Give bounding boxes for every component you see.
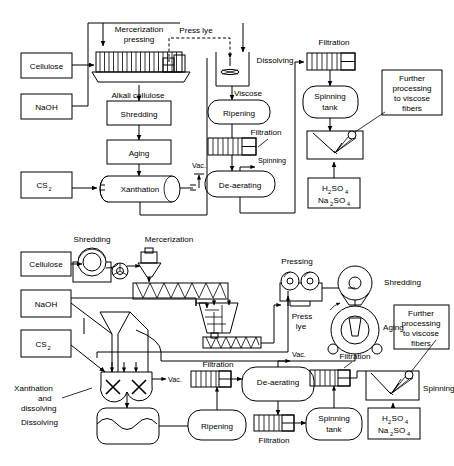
bot-spin-bath (366, 371, 419, 400)
top-filtration-unit-1 (307, 53, 355, 70)
bot-acid-so: SO (392, 414, 404, 423)
bot-naoh-box: NaOH (21, 290, 71, 317)
bot-further-line2: processing (401, 319, 440, 328)
bot-filtration-to-spin-bath (350, 371, 366, 378)
bot-steeping-tank (199, 299, 238, 338)
top-cellulose-label: Cellulose (30, 62, 64, 71)
bot-pressing-label: Pressing (281, 257, 313, 266)
bot-cs2-subscript: 2 (48, 345, 51, 351)
bot-mercerization-hopper (138, 248, 161, 282)
bot-cellulose-box: Cellulose (21, 252, 71, 276)
bot-deaerating-vessel: De-aerating (242, 367, 314, 401)
bot-mercerization-conveyor (133, 283, 228, 299)
bot-cellulose-label: Cellulose (29, 260, 63, 269)
bot-spinning-tank-label-2: tank (326, 425, 342, 434)
bot-filtration-label-2: Filtration (339, 352, 370, 361)
top-spinning-leader (355, 112, 385, 132)
top-deaerating-label: De-aerating (219, 181, 261, 190)
top-dissolving-label: Dissolving (257, 56, 294, 65)
bot-mercerization-label: Mercerization (145, 235, 194, 244)
bot-cs2-feed-arrow (71, 345, 105, 372)
top-further-line4: fibers (402, 104, 422, 113)
bot-xanthation-line3: dissolving (21, 404, 57, 413)
bot-spinning-tank-vessel: Spinning tank (306, 408, 362, 440)
top-acid-so: SO (332, 184, 344, 193)
top-aging-label: Aging (129, 149, 150, 158)
top-cs2-box: CS 2 (21, 172, 72, 198)
top-dissolving-vessel (216, 52, 249, 86)
top-acid-na-so-sub: 4 (347, 201, 350, 207)
top-further-line1: Further (399, 74, 425, 83)
bot-dissolving-label: Dissolving (21, 418, 58, 427)
bot-further-processing-box: Further processing to viscose fibers (394, 305, 449, 349)
top-deaerating-vessel: De-aerating (205, 171, 275, 197)
bot-spinning-label: Spinning (423, 384, 454, 393)
bot-deaerating-label: De-aerating (257, 378, 299, 387)
bot-further-line4: fibers (411, 339, 431, 348)
top-vac-label-1: Vac. (192, 161, 206, 170)
top-filtration-unit-2 (208, 138, 256, 155)
bot-cs2-label: CS (35, 340, 47, 349)
top-spin-bath (307, 131, 363, 159)
top-mercerization-press (92, 52, 190, 82)
top-alkali-cellulose-label: Alkali cellulose (111, 91, 165, 100)
top-xanthation-label: Xanthation (121, 185, 160, 194)
bot-acid-na-so: SO (394, 426, 406, 435)
top-cs2-label: CS (36, 181, 48, 190)
bot-dissolving-vessel (97, 408, 159, 444)
top-acid-na-so: SO (334, 196, 346, 205)
top-further-processing-box: Further processing to viscose fibers (382, 70, 442, 115)
bot-pressing-rolls (280, 272, 322, 306)
bot-filtration-label-1: Filtration (202, 360, 233, 369)
process-flow-figure: Cellulose NaOH CS 2 Mercerization pressi… (0, 0, 454, 466)
top-mercerization-label-line1: Mercerization (115, 25, 164, 34)
bot-naoh-label: NaOH (35, 300, 58, 309)
bot-mixer-blades (106, 380, 146, 394)
bot-xanthation-line1: Xanthation (14, 384, 53, 393)
bot-filtration-label-3: Filtration (258, 436, 289, 445)
top-cs2-subscript: 2 (49, 186, 52, 192)
top-acid-box: H 2 SO 4 Na 2 SO 4 (308, 178, 360, 208)
bot-xanthation-mixer (101, 372, 153, 402)
bot-shredder-1 (73, 248, 111, 282)
top-spinning-tank-label-2: tank (322, 103, 338, 112)
top-further-line3: to viscose (394, 94, 430, 103)
bot-cs2-box: CS 2 (21, 330, 71, 357)
bot-acid-na-so-sub: 4 (407, 431, 410, 437)
bot-shredding-label-1: Shredding (74, 235, 111, 244)
top-cellulose-box: Cellulose (21, 53, 72, 78)
bot-further-line1: Further (408, 309, 434, 318)
diagram-top: Cellulose NaOH CS 2 Mercerization pressi… (0, 0, 454, 466)
top-acid-so-sub: 4 (345, 189, 348, 195)
top-shredding-box: Shredding (107, 101, 171, 125)
bot-xanthation-line2: and (38, 394, 52, 403)
top-viscose-label: Viscose (234, 89, 263, 98)
bot-filtration-unit-1 (191, 371, 231, 387)
top-press-lye-label: Press lye (179, 26, 213, 35)
bot-feed-funnels (71, 303, 148, 372)
top-vac-label-2: Spinning (258, 156, 286, 165)
top-acid-na: Na (318, 196, 329, 205)
bot-acid-na: Na (378, 426, 389, 435)
bot-ripening-vessel: Ripening (188, 410, 246, 440)
top-xanthation-inlet-valve (100, 185, 105, 190)
bot-xanthation-leader (62, 388, 92, 398)
bot-blower (111, 263, 128, 279)
top-spinning-tank-label-1: Spinning (314, 92, 346, 101)
top-ripening-vessel: Ripening (208, 100, 270, 124)
bot-deaerating-vac-line (278, 361, 290, 367)
bot-filtration-unit-2 (254, 415, 294, 431)
bot-acid-so-sub: 4 (405, 419, 408, 425)
top-press-lye-dashed-line (169, 38, 230, 62)
top-filtration-label-1: Filtration (318, 38, 349, 47)
bot-naoh-branch (196, 303, 207, 308)
bot-ripening-label: Ripening (201, 422, 233, 431)
top-filtration-leader-2 (258, 139, 268, 147)
bot-press-lye-return-line (97, 352, 288, 358)
bot-press-lye-line1: Press (292, 312, 313, 321)
top-naoh-label: NaOH (35, 103, 58, 112)
bot-filtration-leader-3 (344, 362, 352, 368)
top-naoh-box: NaOH (21, 94, 72, 119)
bot-acid-box: H 2 SO 4 Na 2 SO 4 (368, 408, 420, 439)
top-further-line2: processing (392, 84, 431, 93)
